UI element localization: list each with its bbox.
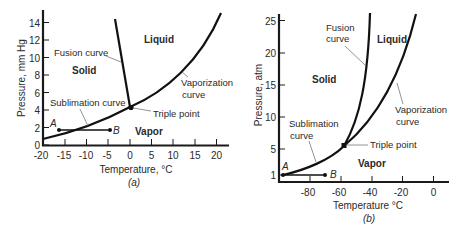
x-tick-label: -20 [34,150,49,161]
y-tick-label: 25 [265,16,277,27]
x-tick-label: -80 [301,187,316,198]
panel-a-y-tick-labels: 0 2 4 6 8 10 12 14 [29,18,41,152]
panel-a-region-liquid: Liquid [144,34,174,45]
panel-b-point-b-label: B [330,169,337,180]
panel-a-triple-point-leader [133,108,151,111]
panel-a-region-vapor: Vapor [135,126,163,137]
panel-a-vaporization-label-line2: curve [182,89,205,100]
panel-a-label: (a) [128,177,140,188]
y-tick-label: 1 [270,170,276,181]
y-tick-label: 15 [265,80,277,91]
panel-a-y-axis-title: Pressure, mm Hg [16,39,27,117]
panel-a-point-a-label: A [49,118,57,129]
panel-b-y-tick-labels: 1 5 10 15 20 25 [265,16,277,182]
x-tick-label: -40 [363,187,378,198]
panel-b-point-a [281,173,285,177]
y-tick-label: 6 [34,88,40,99]
panel-b-sublimation-label-line2: curve [290,130,313,141]
panel-b-triple-point-marker [342,143,347,148]
y-tick-label: 12 [29,35,41,46]
x-tick-label: 5 [149,150,155,161]
x-tick-label: -60 [332,187,347,198]
y-tick-label: 14 [29,18,41,29]
panel-a-point-a [57,128,61,132]
y-tick-label: 8 [34,70,40,81]
panel-b-region-vapor: Vapor [358,158,386,169]
x-tick-label: 10 [167,150,179,161]
panel-a-fusion-leader [106,56,121,62]
panel-b-region-liquid: Liquid [377,34,407,45]
panel-b-region-solid: Solid [312,74,336,85]
y-tick-label: 10 [29,53,41,64]
panel-b: 1 5 10 15 20 25 -80 -60 -40 -20 0 Temper… [253,13,449,224]
x-tick-label: 0 [127,150,133,161]
panel-b-point-a-label: A [281,161,289,172]
panel-b-y-axis-title: Pressure, atm [253,64,264,126]
panel-a-point-b [108,128,112,132]
x-tick-label: 20 [211,150,223,161]
x-tick-label: 0 [431,187,437,198]
panel-a-x-ticks [65,139,217,145]
panel-a: 0 2 4 6 8 10 12 14 -20 -15 -10 -5 0 5 [16,10,233,188]
panel-a-triple-point-marker [128,105,133,110]
panel-a-sublimation-label: Sublimation curve [50,97,126,108]
phase-diagrams-figure: 0 2 4 6 8 10 12 14 -20 -15 -10 -5 0 5 [0,0,463,232]
y-tick-label: 20 [265,48,277,59]
panel-a-vaporization-curve [130,13,221,107]
panel-b-x-axis-title: Temperature °C [333,200,403,211]
panel-b-point-b [323,173,327,177]
y-tick-label: 5 [270,144,276,155]
panel-b-fusion-label-line2: curve [326,33,349,44]
panel-b-label: (b) [363,213,375,224]
x-tick-label: 15 [189,150,201,161]
panel-b-fusion-leader [345,46,366,66]
y-tick-label: 10 [265,112,277,123]
panel-a-x-axis-title: Temperature, °C [100,164,173,175]
panel-a-triple-point-label: Triple point [153,108,200,119]
panel-b-x-tick-labels: -80 -60 -40 -20 0 [301,187,437,198]
y-tick-label: 4 [34,105,40,116]
x-tick-label: -10 [79,150,94,161]
panel-b-triple-point-label: Triple point [370,139,417,150]
panel-b-sublimation-label-line1: Sublimation [289,118,339,129]
y-tick-label: 2 [34,123,40,134]
x-tick-label: -20 [394,187,409,198]
x-tick-label: -5 [103,150,112,161]
panel-a-region-solid: Solid [72,65,96,76]
panel-a-x-tick-labels: -20 -15 -10 -5 0 5 10 15 20 [34,150,223,161]
panel-b-vaporization-label-line1: Vaporization [395,104,447,115]
panel-b-vaporization-label-line2: curve [396,116,419,127]
panel-a-sublimation-leader [80,109,88,126]
panel-b-sublimation-leader [309,141,316,162]
panel-a-point-b-label: B [113,125,120,136]
x-tick-label: -15 [57,150,72,161]
panel-b-vaporization-leader [397,83,403,104]
panel-b-fusion-label-line1: Fusion [326,22,355,33]
panel-a-fusion-label: Fusion curve [54,47,108,58]
panel-a-fusion-curve [115,19,130,107]
panel-a-vaporization-label-line1: Vaporization [181,77,233,88]
